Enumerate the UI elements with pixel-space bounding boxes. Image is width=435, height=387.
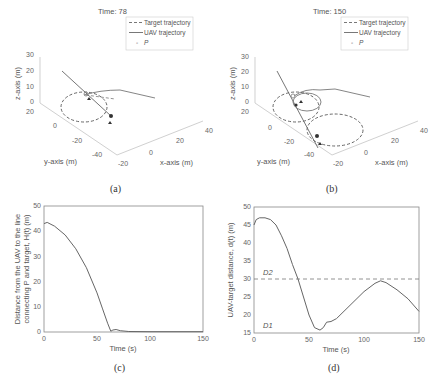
- panel-a-title: Time: 78: [98, 7, 127, 16]
- panel-a-zlabel: z-axis (m): [13, 67, 22, 100]
- panel-a: Time: 78 Target trajectory UAV trajector…: [13, 7, 213, 195]
- panel-d-caption: (d): [328, 362, 340, 374]
- panel-b-ylabel: y-axis (m): [257, 157, 290, 166]
- figure-canvas: Time: 78 Target trajectory UAV trajector…: [0, 0, 435, 387]
- svg-text:10: 10: [33, 303, 41, 310]
- legend-target-trajectory: Target trajectory: [144, 19, 191, 27]
- svg-text:0: 0: [53, 122, 57, 129]
- panel-c-ylabel-2: connecting P and target, H(t) (m): [22, 214, 31, 324]
- svg-text:20: 20: [176, 137, 184, 144]
- panel-c: 0 10 20 30 40 50 0 50 100 150 Time (s) D…: [13, 202, 209, 374]
- panel-b: Time: 150 Target trajectory UAV trajecto…: [228, 7, 428, 195]
- svg-text:-40: -40: [304, 151, 314, 158]
- panel-a-legend: Target trajectory UAV trajectory ◦ P: [126, 17, 193, 50]
- panel-d: 15 20 25 30 35 40 45 50 0 50 100 150 Tim…: [226, 203, 425, 374]
- svg-text:20: 20: [241, 108, 249, 115]
- svg-text:40: 40: [420, 127, 428, 134]
- svg-text:-20: -20: [118, 160, 128, 167]
- svg-text:-20: -20: [284, 138, 294, 145]
- svg-text:150: 150: [413, 336, 425, 343]
- svg-text:-20: -20: [333, 160, 343, 167]
- svg-text:35: 35: [243, 257, 251, 264]
- panel-c-caption: (c): [114, 362, 125, 374]
- svg-text:0: 0: [268, 124, 272, 131]
- svg-text:-40: -40: [92, 151, 102, 158]
- panel-b-zlabel: z-axis (m): [228, 67, 237, 100]
- svg-text:10: 10: [241, 83, 249, 90]
- svg-text:0: 0: [149, 149, 153, 156]
- p-marker-icon: ◦: [351, 39, 353, 46]
- svg-text:30: 30: [243, 275, 251, 282]
- svg-text:20: 20: [33, 278, 41, 285]
- panel-a-trajectories: [61, 71, 155, 124]
- svg-text:20: 20: [243, 311, 251, 318]
- svg-text:30: 30: [26, 51, 34, 58]
- svg-text:40: 40: [243, 239, 251, 246]
- panel-c-yticks: 0 10 20 30 40 50: [33, 202, 41, 335]
- legend-target-trajectory: Target trajectory: [359, 19, 406, 27]
- panel-a-ylabel: y-axis (m): [44, 157, 77, 166]
- svg-text:30: 30: [33, 253, 41, 260]
- svg-text:0: 0: [30, 98, 34, 105]
- svg-text:100: 100: [358, 336, 370, 343]
- panel-b-xlabel: x-axis (m): [375, 158, 408, 167]
- panel-d-xlabel: Time (s): [322, 345, 350, 354]
- panel-c-xlabel: Time (s): [109, 344, 137, 353]
- svg-text:-20: -20: [72, 137, 82, 144]
- panel-d-frame: [254, 207, 419, 333]
- svg-text:50: 50: [305, 336, 313, 343]
- svg-text:50: 50: [33, 202, 41, 209]
- panel-c-frame: [44, 206, 203, 332]
- svg-text:10: 10: [26, 83, 34, 90]
- panel-b-trajectories: [273, 71, 370, 148]
- svg-text:50: 50: [93, 335, 101, 342]
- svg-text:45: 45: [243, 221, 251, 228]
- svg-text:40: 40: [205, 127, 213, 134]
- panel-c-ylabel-1: Distance from the UAV to the line: [13, 214, 22, 324]
- svg-text:20: 20: [391, 137, 399, 144]
- svg-text:0: 0: [42, 335, 46, 342]
- panel-b-title: Time: 150: [313, 7, 346, 16]
- legend-p: P: [144, 39, 149, 46]
- svg-text:0: 0: [37, 328, 41, 335]
- svg-text:30: 30: [241, 53, 249, 60]
- svg-text:50: 50: [243, 203, 251, 210]
- panel-d-xticks: 0 50 100 150: [252, 336, 425, 343]
- panel-d-series-d: [254, 218, 419, 330]
- svg-text:100: 100: [144, 335, 156, 342]
- svg-text:150: 150: [197, 335, 209, 342]
- svg-text:0: 0: [252, 336, 256, 343]
- panel-b-legend: Target trajectory UAV trajectory ◦ P: [341, 17, 408, 50]
- legend-p: P: [359, 39, 364, 46]
- panel-d-ylabel: UAV-target distance, d(t) (m): [226, 222, 235, 317]
- panel-c-xticks: 0 50 100 150: [42, 335, 209, 342]
- legend-uav-trajectory: UAV trajectory: [144, 29, 186, 37]
- svg-text:20: 20: [241, 68, 249, 75]
- svg-text:0: 0: [364, 149, 368, 156]
- panel-a-caption: (a): [110, 183, 121, 195]
- svg-text:20: 20: [26, 108, 34, 115]
- svg-text:15: 15: [243, 329, 251, 336]
- panel-b-caption: (b): [326, 183, 338, 195]
- panel-a-xlabel: x-axis (m): [160, 158, 193, 167]
- panel-d-annot-d1: D1: [263, 321, 273, 330]
- svg-text:25: 25: [243, 293, 251, 300]
- panel-c-series-H: [44, 222, 203, 331]
- panel-d-yticks: 15 20 25 30 35 40 45 50: [243, 203, 251, 336]
- legend-uav-trajectory: UAV trajectory: [359, 29, 401, 37]
- svg-text:0: 0: [245, 98, 249, 105]
- svg-text:20: 20: [26, 67, 34, 74]
- svg-text:40: 40: [33, 227, 41, 234]
- p-marker-icon: ◦: [136, 39, 138, 46]
- panel-d-annot-d2: D2: [263, 268, 273, 277]
